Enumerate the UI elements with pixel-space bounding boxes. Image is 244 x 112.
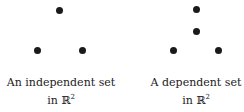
caption-line-1: An independent set (0, 76, 122, 90)
dependent-set-caption: A dependent set in ℝ2 (135, 76, 244, 108)
point (215, 47, 222, 54)
caption-line-1: A dependent set (135, 76, 244, 90)
point (34, 47, 41, 54)
point (56, 7, 63, 14)
point (170, 47, 177, 54)
caption-line-2: in ℝ2 (0, 90, 122, 108)
caption-line-2: in ℝ2 (135, 90, 244, 108)
point (79, 47, 86, 54)
independent-set-caption: An independent set in ℝ2 (0, 76, 122, 108)
point (193, 6, 200, 13)
point (193, 28, 200, 35)
